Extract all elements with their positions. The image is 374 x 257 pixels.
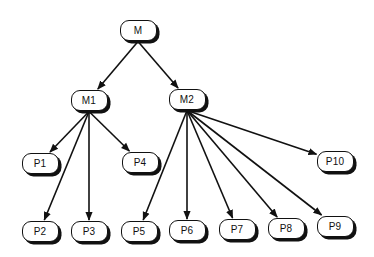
node-p6: P6 <box>169 220 206 241</box>
node-p9: P9 <box>317 216 354 237</box>
node-m1: M1 <box>71 90 108 111</box>
node-p7: P7 <box>219 219 256 240</box>
edge-m-m2 <box>138 42 178 89</box>
node-label: P4 <box>134 157 147 168</box>
node-p2: P2 <box>22 221 59 242</box>
node-label: M <box>134 25 143 36</box>
node-m2: M2 <box>169 89 206 110</box>
node-p4: P4 <box>122 152 159 173</box>
node-label: P6 <box>181 225 194 236</box>
node-m: M <box>120 20 157 41</box>
tree-diagram: MM1M2P1P4P10P2P3P5P6P7P8P9 <box>0 0 374 257</box>
edge-m2-p7 <box>187 111 233 219</box>
node-p8: P8 <box>268 218 305 239</box>
node-p10: P10 <box>317 151 354 172</box>
node-label: P7 <box>231 224 244 235</box>
node-label: P1 <box>34 158 47 169</box>
edges-layer <box>0 0 374 257</box>
edge-m1-p1 <box>50 112 89 153</box>
node-label: P10 <box>326 156 344 167</box>
edge-m1-p4 <box>89 112 129 152</box>
node-label: M1 <box>82 95 96 106</box>
edge-m2-p9 <box>187 111 322 216</box>
node-label: P9 <box>329 221 342 232</box>
edge-m-m1 <box>98 42 138 90</box>
node-p1: P1 <box>22 153 59 174</box>
node-label: P2 <box>34 226 47 237</box>
node-label: M2 <box>180 94 194 105</box>
node-label: P5 <box>133 226 146 237</box>
node-p5: P5 <box>121 221 158 242</box>
node-label: P8 <box>280 223 293 234</box>
node-label: P3 <box>83 226 96 237</box>
node-p3: P3 <box>71 221 108 242</box>
